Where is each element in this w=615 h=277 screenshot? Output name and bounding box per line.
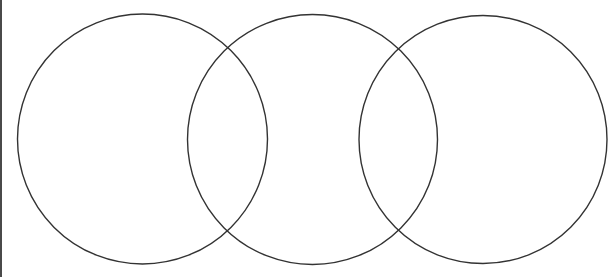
circle-left <box>18 14 268 264</box>
venn-diagram <box>0 0 615 277</box>
circle-right <box>359 16 607 264</box>
venn-diagram-canvas <box>0 0 615 277</box>
circle-middle <box>188 15 438 265</box>
